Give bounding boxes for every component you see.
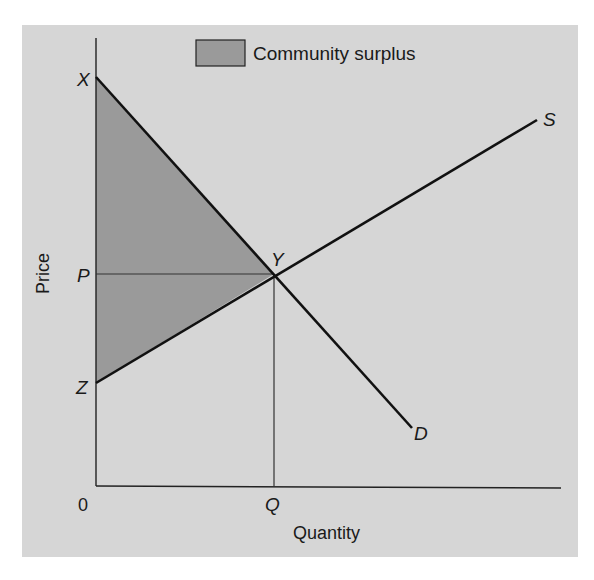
point-q-label: Q	[265, 495, 280, 514]
y-axis-label: Price	[34, 253, 52, 294]
point-p-label: P	[77, 266, 90, 285]
supply-label: S	[543, 110, 556, 129]
point-z-label: Z	[76, 378, 88, 397]
point-y-label: Y	[271, 250, 284, 269]
legend-label: Community surplus	[253, 44, 416, 63]
origin-label: 0	[78, 496, 88, 514]
legend-swatch	[196, 40, 245, 66]
x-axis-label: Quantity	[293, 524, 360, 542]
point-x-label: X	[77, 70, 90, 89]
demand-label: D	[414, 424, 428, 443]
